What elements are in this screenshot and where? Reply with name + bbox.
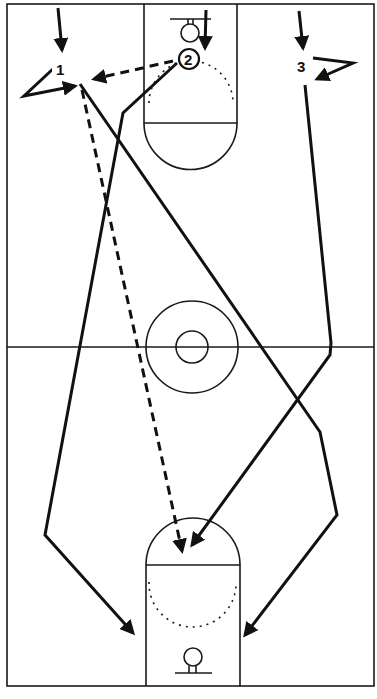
court-lines [7, 4, 374, 686]
player-2-label: 2 [184, 51, 192, 68]
player-3-vcut [313, 58, 353, 79]
bottom-dotted-arc [149, 582, 236, 627]
bottom-key [146, 565, 240, 686]
player-1-label: 1 [56, 61, 64, 78]
player-1-entry-arrow [58, 8, 62, 50]
top-free-throw-circle [144, 123, 237, 170]
court-diagram: 1 2 3 [0, 0, 377, 699]
player-3-cut-path [192, 85, 331, 545]
top-basket [181, 24, 199, 42]
pass-paths [82, 61, 182, 551]
player-2-cut-path [45, 63, 177, 633]
player-2-entry-arrow [205, 10, 206, 48]
bottom-basket [184, 648, 202, 666]
court-boundary [7, 4, 374, 686]
player-paths [24, 8, 353, 635]
player-3-label: 3 [297, 58, 305, 75]
player-3-entry-arrow [299, 11, 303, 48]
players: 1 2 3 [52, 49, 309, 78]
